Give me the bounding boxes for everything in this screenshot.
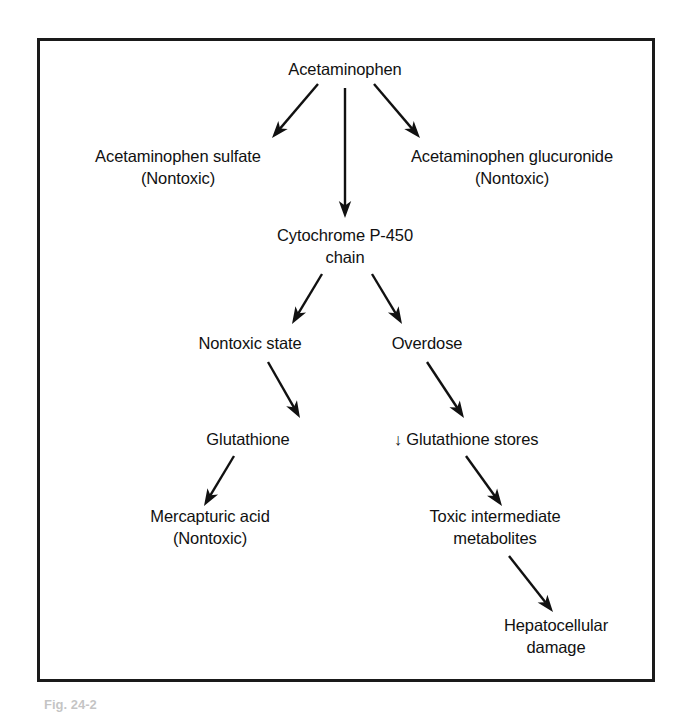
node-glutathione-line: Glutathione	[206, 429, 289, 451]
node-hepatocellular-damage-line: Hepatocellular	[504, 615, 608, 637]
node-cytochrome-p450-chain-line: chain	[277, 247, 413, 269]
node-nontoxic-state: Nontoxic state	[198, 333, 301, 355]
node-mercapturic-acid: Mercapturic acid(Nontoxic)	[150, 506, 269, 550]
node-mercapturic-acid-line: Mercapturic acid	[150, 506, 269, 528]
figure-root: AcetaminophenAcetaminophen sulfate(Nonto…	[0, 0, 686, 712]
node-acetaminophen-sulfate: Acetaminophen sulfate(Nontoxic)	[95, 146, 261, 190]
node-acetaminophen-sulfate-line: Acetaminophen sulfate	[95, 146, 261, 168]
node-cytochrome-p450-chain-line: Cytochrome P-450	[277, 225, 413, 247]
node-acetaminophen: Acetaminophen	[288, 59, 401, 81]
figure-caption: Fig. 24-2	[44, 697, 97, 712]
node-overdose: Overdose	[392, 333, 463, 355]
node-acetaminophen-glucuronide: Acetaminophen glucuronide(Nontoxic)	[411, 146, 613, 190]
node-toxic-intermediate-metabolites: Toxic intermediatemetabolites	[429, 506, 560, 550]
node-cytochrome-p450-chain: Cytochrome P-450chain	[277, 225, 413, 269]
node-acetaminophen-glucuronide-line: Acetaminophen glucuronide	[411, 146, 613, 168]
node-glutathione: Glutathione	[206, 429, 289, 451]
node-nontoxic-state-line: Nontoxic state	[198, 333, 301, 355]
node-glutathione-stores-decreased-line: ↓ Glutathione stores	[394, 429, 539, 451]
node-overdose-line: Overdose	[392, 333, 463, 355]
node-acetaminophen-glucuronide-line: (Nontoxic)	[411, 168, 613, 190]
node-mercapturic-acid-line: (Nontoxic)	[150, 528, 269, 550]
node-acetaminophen-line: Acetaminophen	[288, 59, 401, 81]
node-toxic-intermediate-metabolites-line: Toxic intermediate	[429, 506, 560, 528]
node-hepatocellular-damage: Hepatocellulardamage	[504, 615, 608, 659]
node-hepatocellular-damage-line: damage	[504, 637, 608, 659]
node-toxic-intermediate-metabolites-line: metabolites	[429, 528, 560, 550]
diagram-frame	[37, 38, 655, 682]
node-glutathione-stores-decreased: ↓ Glutathione stores	[394, 429, 539, 451]
node-acetaminophen-sulfate-line: (Nontoxic)	[95, 168, 261, 190]
